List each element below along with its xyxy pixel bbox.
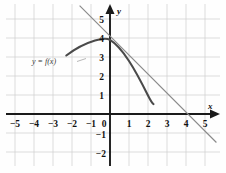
- ytick-label: 2: [99, 72, 104, 82]
- y-axis: [106, 4, 115, 166]
- ytick-label: 3: [99, 53, 104, 63]
- y-axis-label: y: [116, 6, 122, 16]
- xtick-label: 4: [184, 119, 189, 129]
- x-axis-label: x: [207, 101, 213, 111]
- xtick-label: 5: [203, 119, 208, 129]
- annotation-leader-line: [77, 59, 86, 62]
- ytick-label: 5: [99, 15, 104, 25]
- graph-figure: y = f(x) y x −5 −4 −3 −2 −1 0 1 2 3 4 5 …: [0, 0, 226, 173]
- ytick-label: −1: [96, 130, 106, 140]
- xtick-label: −5: [10, 119, 20, 129]
- xtick-label: −1: [86, 119, 96, 129]
- xtick-label: 2: [146, 119, 151, 129]
- ytick-label: 1: [99, 91, 104, 101]
- xtick-label: −3: [48, 119, 58, 129]
- xtick-label: 1: [127, 119, 132, 129]
- xtick-label: −2: [67, 119, 77, 129]
- xtick-label: 3: [165, 119, 170, 129]
- curve-label: y = f(x): [31, 57, 56, 66]
- coordinate-plane: y = f(x) y x −5 −4 −3 −2 −1 0 1 2 3 4 5 …: [0, 0, 226, 173]
- xtick-label: −4: [29, 119, 39, 129]
- ytick-label: −2: [96, 149, 106, 159]
- origin-label: 0: [102, 119, 107, 129]
- ytick-label: 4: [99, 34, 104, 44]
